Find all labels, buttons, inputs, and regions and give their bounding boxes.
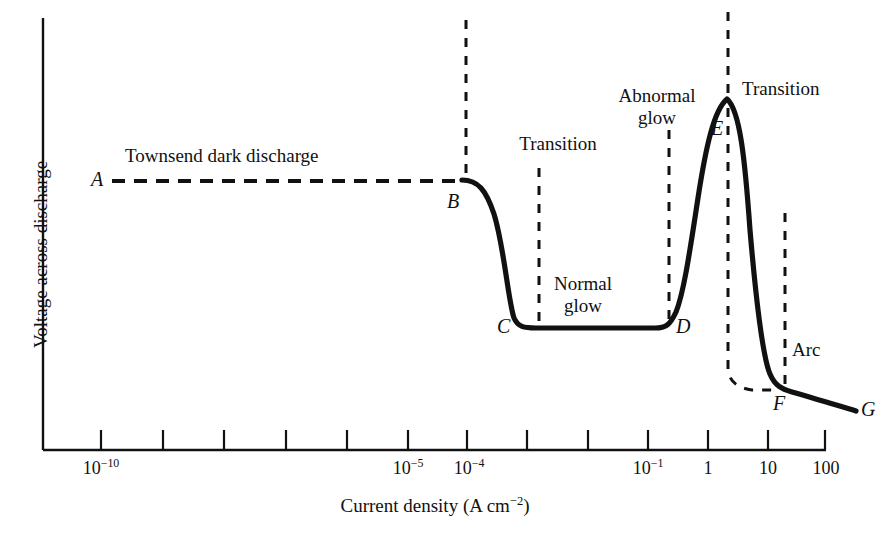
tick-base: 10	[454, 458, 472, 478]
point-label-e: E	[711, 117, 723, 140]
tick-base: 1	[704, 458, 713, 478]
x-axis-title: Current density (A cm−2)	[340, 495, 529, 517]
point-label-g: G	[861, 398, 875, 421]
tick-exponent: −1	[651, 456, 664, 470]
tick-exponent: −5	[411, 456, 424, 470]
annotation-abnormal-glow-line1: Abnormal	[618, 85, 695, 106]
annotation-transition-2: Transition	[742, 78, 819, 99]
tick-exponent: −10	[101, 456, 120, 470]
x-axis-title-exponent: −2	[510, 494, 523, 508]
x-axis-title-tail: )	[523, 495, 529, 516]
point-label-f: F	[773, 392, 785, 415]
discharge-characteristic-figure: Voltage across discharge Current density…	[0, 0, 887, 537]
x-axis-title-base: Current density (A cm	[340, 495, 509, 516]
region-divider-lines	[466, 12, 785, 392]
annotation-abnormal-glow-line2: glow	[638, 107, 676, 128]
x-axis-ticks	[101, 430, 825, 450]
point-label-b: B	[447, 190, 459, 213]
x-tick-label-100: 100	[813, 458, 840, 479]
x-tick-label-1e-10: 10−10	[83, 458, 120, 479]
tick-base: 10	[83, 458, 101, 478]
annotation-transition-1: Transition	[519, 133, 596, 154]
x-tick-label-1e-4: 10−4	[454, 458, 485, 479]
point-label-a: A	[91, 168, 103, 191]
x-tick-label-1: 1	[704, 458, 713, 479]
tick-exponent: −4	[472, 456, 485, 470]
x-tick-label-1e-5: 10−5	[393, 458, 424, 479]
point-label-c: C	[497, 315, 510, 338]
tick-base: 10	[633, 458, 651, 478]
tick-base: 10	[393, 458, 411, 478]
y-axis-title: Voltage across discharge	[30, 161, 52, 348]
x-tick-label-10: 10	[759, 458, 777, 479]
tick-base: 100	[813, 458, 840, 478]
annotation-normal-glow-line2: glow	[564, 295, 602, 316]
annotation-townsend-dark-discharge: Townsend dark discharge	[125, 145, 319, 166]
annotation-arc: Arc	[792, 339, 820, 360]
point-label-d: D	[676, 315, 690, 338]
x-tick-label-1e-1: 10−1	[633, 458, 664, 479]
annotation-normal-glow-line1: Normal	[554, 273, 612, 294]
tick-base: 10	[759, 458, 777, 478]
